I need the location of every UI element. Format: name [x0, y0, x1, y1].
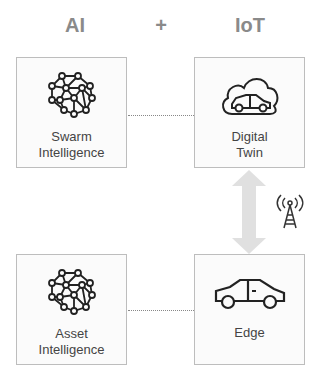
swarm-label-1: Swarm — [17, 129, 126, 145]
header-ai: AI — [40, 14, 110, 37]
car-icon — [195, 277, 304, 315]
radio-tower-icon — [276, 194, 304, 234]
cloud-car-icon — [195, 70, 304, 124]
header-plus: + — [146, 14, 176, 37]
twin-label-1: Digital — [195, 129, 304, 145]
neural-network-brain-icon — [17, 267, 126, 321]
asset-intelligence-box: Asset Intelligence — [16, 254, 127, 365]
edge-label: Edge — [195, 325, 304, 341]
swarm-intelligence-box: Swarm Intelligence — [16, 57, 127, 168]
swarm-label-2: Intelligence — [17, 145, 126, 161]
digital-twin-box: Digital Twin — [194, 57, 305, 168]
neural-network-brain-icon — [17, 70, 126, 124]
edge-box: Edge — [194, 254, 305, 365]
dotted-connector-bottom — [128, 310, 194, 311]
asset-label-1: Asset — [17, 326, 126, 342]
dotted-connector-top — [128, 115, 194, 116]
bidirectional-arrow-icon — [232, 170, 266, 258]
asset-label-2: Intelligence — [17, 342, 126, 358]
header-iot: IoT — [215, 14, 285, 37]
twin-label-2: Twin — [195, 145, 304, 161]
